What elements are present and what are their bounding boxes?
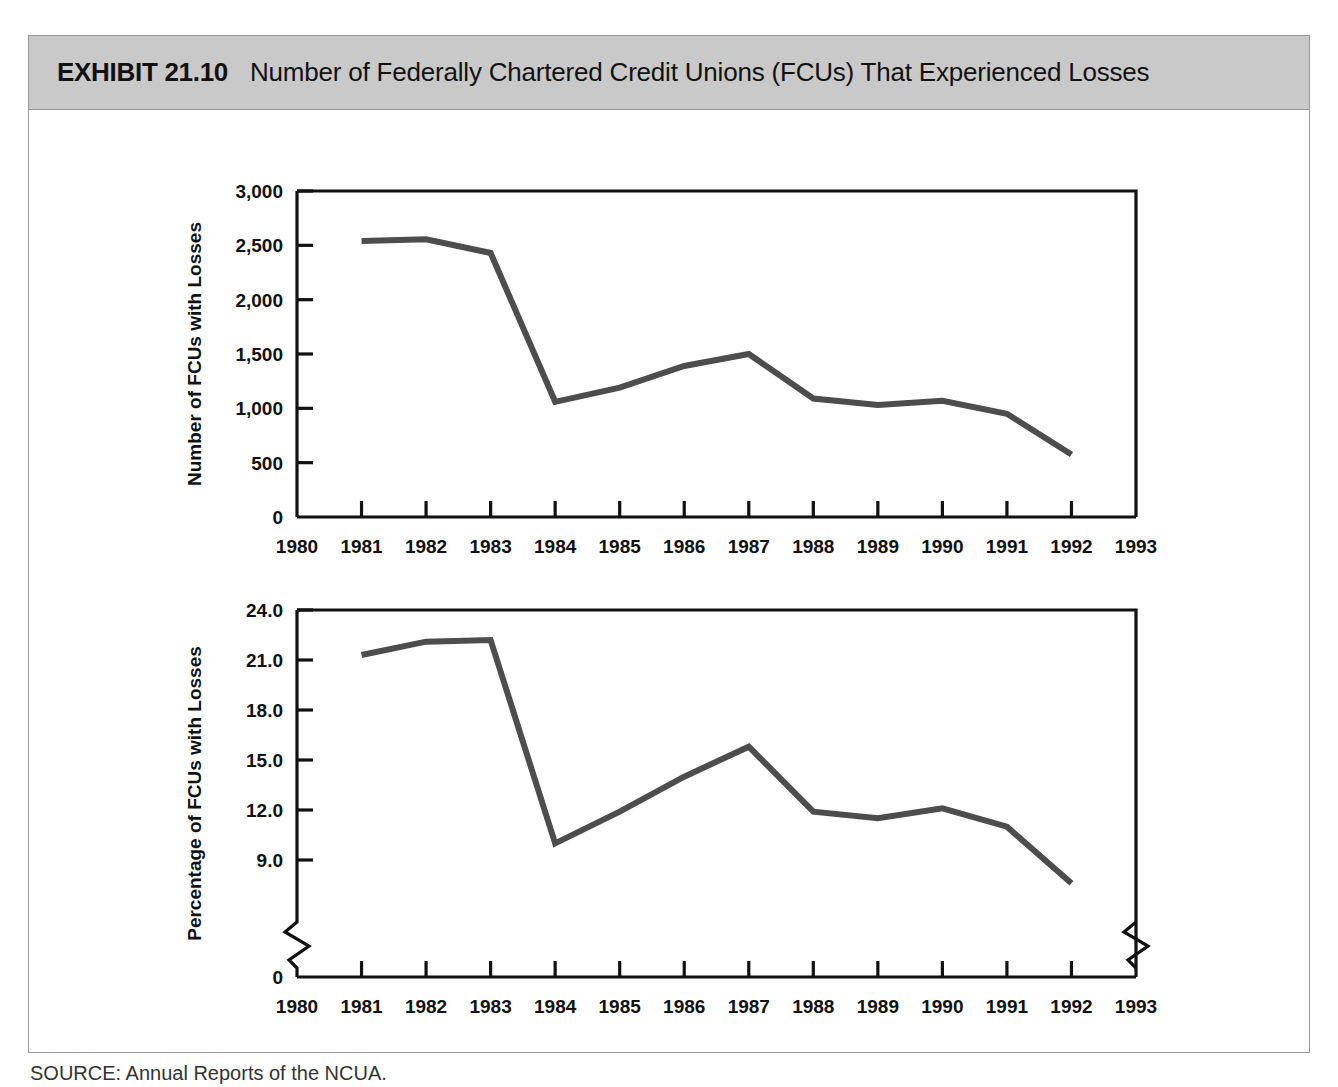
y-tick-label: 2,000: [235, 290, 283, 311]
source-note: SOURCE: Annual Reports of the NCUA.: [30, 1062, 387, 1085]
x-tick-label: 1982: [405, 996, 447, 1017]
y-tick-label: 18.0: [246, 700, 283, 721]
x-tick-label: 1991: [986, 996, 1029, 1017]
exhibit-title: Number of Federally Chartered Credit Uni…: [250, 57, 1149, 88]
x-tick-label: 1985: [599, 536, 642, 557]
chart-percent: 09.012.015.018.021.024.01980198119821983…: [184, 600, 1157, 1054]
x-tick-label: 1992: [1050, 536, 1092, 557]
x-tick-label: 1983: [469, 536, 511, 557]
x-tick-label: 1983: [469, 996, 511, 1017]
y-axis-title: Percentage of FCUs with Losses: [184, 646, 205, 941]
y-tick-label: 3,000: [235, 181, 283, 202]
x-tick-label: 1981: [340, 536, 383, 557]
y-axis-title: Number of FCUs with Losses: [184, 222, 205, 486]
y-tick-label: 1,000: [235, 398, 283, 419]
x-tick-label: 1984: [534, 536, 577, 557]
exhibit-frame: EXHIBIT 21.10 Number of Federally Charte…: [28, 35, 1310, 1053]
charts-area: 05001,0001,5002,0002,5003,00019801981198…: [29, 110, 1309, 1054]
x-tick-label: 1982: [405, 536, 447, 557]
x-tick-label: 1981: [340, 996, 383, 1017]
exhibit-number: EXHIBIT 21.10: [57, 57, 228, 88]
x-tick-label: 1980: [276, 536, 318, 557]
x-tick-label: 1990: [921, 536, 963, 557]
x-tick-label: 1993: [1115, 996, 1157, 1017]
y-tick-label: 15.0: [246, 750, 283, 771]
x-tick-label: 1980: [276, 996, 318, 1017]
x-tick-label: 1988: [792, 996, 834, 1017]
x-tick-label: 1989: [857, 996, 899, 1017]
plot-frame: [297, 610, 1136, 977]
x-tick-label: 1989: [857, 536, 899, 557]
exhibit-header: EXHIBIT 21.10 Number of Federally Charte…: [29, 36, 1309, 110]
y-tick-label: 9.0: [257, 850, 283, 871]
chart-counts: 05001,0001,5002,0002,5003,00019801981198…: [184, 181, 1157, 557]
x-tick-label: 1992: [1050, 996, 1092, 1017]
y-tick-label: 2,500: [235, 235, 283, 256]
x-tick-label: 1986: [663, 536, 705, 557]
y-tick-label: 12.0: [246, 800, 283, 821]
series-line: [362, 239, 1072, 454]
y-tick-label: 24.0: [246, 600, 283, 621]
y-tick-label: 0: [272, 507, 283, 528]
x-tick-label: 1991: [986, 536, 1029, 557]
x-tick-label: 1987: [728, 536, 770, 557]
y-tick-label: 0: [272, 967, 283, 988]
y-axis: [285, 610, 309, 977]
x-tick-label: 1990: [921, 996, 963, 1017]
x-tick-label: 1988: [792, 536, 834, 557]
series-line: [362, 640, 1072, 883]
y-tick-label: 21.0: [246, 650, 283, 671]
x-tick-label: 1993: [1115, 536, 1157, 557]
y-tick-label: 1,500: [235, 344, 283, 365]
x-tick-label: 1987: [728, 996, 770, 1017]
x-tick-label: 1986: [663, 996, 705, 1017]
x-tick-label: 1985: [599, 996, 642, 1017]
x-tick-label: 1984: [534, 996, 577, 1017]
exhibit-page: { "exhibit": { "label": "EXHIBIT 21.10",…: [0, 0, 1338, 1087]
y-tick-label: 500: [251, 453, 283, 474]
exhibit-charts: 05001,0001,5002,0002,5003,00019801981198…: [29, 110, 1311, 1054]
